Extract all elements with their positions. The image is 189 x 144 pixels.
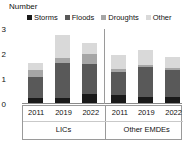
bar-stack[interactable]	[165, 57, 180, 105]
category-group-divider	[105, 106, 106, 139]
bar-segment-floods	[28, 77, 43, 98]
legend-swatch-icon	[146, 15, 151, 20]
category-midline	[105, 121, 183, 122]
category-group-label: Other EMDEs	[107, 125, 187, 134]
legend-swatch-icon	[101, 15, 106, 20]
legend-label: Droughts	[108, 14, 138, 22]
y-axis-tick-label: 2	[0, 50, 6, 59]
bar-segment-floods	[82, 64, 97, 94]
category-group-label: LICs	[23, 125, 103, 134]
category-midline	[23, 121, 105, 122]
category-year-label: 2022	[161, 108, 187, 117]
y-axis-title: Number	[9, 2, 37, 11]
category-year-label: 2011	[107, 108, 133, 117]
legend-swatch-icon	[27, 15, 32, 20]
bar-segment-other	[28, 63, 43, 71]
bar-stack[interactable]	[82, 43, 97, 104]
category-year-label: 2019	[133, 108, 159, 117]
legend-label: Storms	[34, 14, 58, 22]
bar-segment-other	[82, 43, 97, 54]
legend-label: Other	[153, 14, 172, 22]
bar-segment-floods	[138, 67, 153, 97]
bar-stack[interactable]	[55, 35, 70, 104]
chart-figure: Number StormsFloodsDroughtsOther 0123 20…	[0, 0, 189, 144]
legend-item-other[interactable]: Other	[146, 14, 172, 22]
category-year-label: 2019	[50, 108, 76, 117]
group-separator	[104, 29, 105, 104]
chart-legend: StormsFloodsDroughtsOther	[27, 14, 171, 22]
bar-segment-droughts	[82, 54, 97, 64]
legend-item-droughts[interactable]: Droughts	[101, 14, 138, 22]
bar-stack[interactable]	[138, 50, 153, 104]
bar-segment-other	[111, 55, 126, 69]
bar-stack[interactable]	[28, 63, 43, 104]
legend-label: Floods	[72, 14, 95, 22]
bar-series-container	[22, 29, 182, 104]
y-axis-tick-label: 0	[0, 100, 6, 109]
bar-segment-other	[55, 35, 70, 58]
bar-segment-floods	[111, 72, 126, 96]
bar-segment-other	[138, 50, 153, 65]
y-axis-tick-label: 1	[0, 75, 6, 84]
bar-segment-floods	[55, 63, 70, 98]
x-axis-baseline	[22, 103, 182, 104]
bar-segment-floods	[165, 70, 180, 96]
bar-stack[interactable]	[111, 55, 126, 104]
category-year-label: 2011	[23, 108, 49, 117]
category-year-label: 2022	[78, 108, 104, 117]
bar-segment-other	[165, 57, 180, 68]
legend-item-floods[interactable]: Floods	[65, 14, 95, 22]
legend-item-storms[interactable]: Storms	[27, 14, 58, 22]
legend-swatch-icon	[65, 15, 70, 20]
y-axis-tick-label: 3	[0, 25, 6, 34]
plot-area	[22, 29, 182, 104]
category-axis: 201120192022201120192022LICsOther EMDEs	[22, 105, 182, 140]
